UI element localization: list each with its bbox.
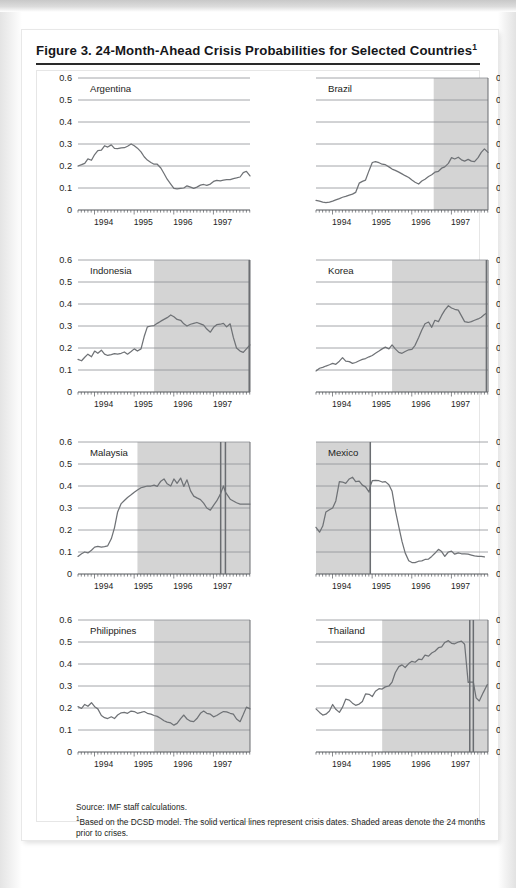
x-tick-label: 1996 (173, 759, 192, 769)
chart-panel-argentina: 00.10.20.30.40.50.61994199519961997Argen… (44, 70, 262, 250)
x-tick-label: 1994 (332, 581, 351, 591)
chart-title: Argentina (90, 83, 132, 94)
footnote-line: 1Based on the DCSD model. The solid vert… (76, 814, 488, 840)
x-tick-label: 1996 (411, 759, 430, 769)
x-tick-label: 1994 (332, 399, 351, 409)
chart-svg-malaysia: 00.10.20.30.40.50.61994199519961997Malay… (44, 434, 262, 614)
chart-grid: 00.10.20.30.40.50.61994199519961997Argen… (44, 70, 516, 790)
x-tick-label: 1994 (94, 399, 113, 409)
x-tick-label: 1994 (332, 759, 351, 769)
chart-title: Thailand (328, 625, 365, 636)
y-tick-label: 0.2 (59, 343, 72, 353)
y-tick-label: 0.1 (496, 547, 500, 557)
y-tick-label: 0.2 (59, 161, 72, 171)
source-line: Source: IMF staff calculations. (76, 802, 488, 814)
y-tick-label: 0.2 (496, 703, 500, 713)
scan-band-top (0, 0, 516, 12)
y-tick-label: 0.5 (59, 459, 72, 469)
y-tick-label: 0.6 (496, 255, 500, 265)
chart-title: Brazil (328, 83, 352, 94)
x-tick-label: 1995 (134, 581, 153, 591)
y-tick-label: 0.1 (59, 365, 72, 375)
x-tick-label: 1995 (372, 399, 391, 409)
x-tick-label: 1996 (173, 581, 192, 591)
y-tick-label: 0.2 (59, 703, 72, 713)
y-tick-label: 0.6 (496, 437, 500, 447)
y-tick-label: 0.5 (59, 95, 72, 105)
y-tick-label: 0.4 (496, 659, 500, 669)
y-tick-label: 0.1 (59, 183, 72, 193)
y-tick-label: 0.1 (496, 183, 500, 193)
x-tick-label: 1996 (173, 399, 192, 409)
y-tick-label: 0.2 (496, 161, 500, 171)
y-tick-label: 0.5 (496, 459, 500, 469)
chart-svg-philippines: 00.10.20.30.40.50.61994199519961997Phili… (44, 612, 262, 792)
x-tick-label: 1996 (411, 581, 430, 591)
y-tick-label: 0.4 (59, 481, 72, 491)
y-tick-label: 0.4 (496, 299, 500, 309)
chart-panel-mexico: 00.10.20.30.40.50.61994199519961997Mexic… (282, 434, 500, 614)
figure-title-text: Figure 3. 24-Month-Ahead Crisis Probabil… (36, 43, 472, 58)
y-tick-label: 0.5 (496, 637, 500, 647)
chart-svg-brazil: 00.10.20.30.40.50.61994199519961997Brazi… (282, 70, 500, 250)
y-tick-label: 0.4 (496, 481, 500, 491)
y-tick-label: 0.5 (496, 277, 500, 287)
x-tick-label: 1997 (213, 399, 232, 409)
y-tick-label: 0.4 (59, 659, 72, 669)
chart-svg-mexico: 00.10.20.30.40.50.61994199519961997Mexic… (282, 434, 500, 614)
chart-panel-philippines: 00.10.20.30.40.50.61994199519961997Phili… (44, 612, 262, 792)
x-tick-label: 1995 (134, 759, 153, 769)
y-tick-label: 0 (496, 387, 500, 397)
y-tick-label: 0.1 (496, 725, 500, 735)
y-tick-label: 0 (67, 205, 72, 215)
chart-panel-brazil: 00.10.20.30.40.50.61994199519961997Brazi… (282, 70, 500, 250)
x-tick-label: 1997 (451, 581, 470, 591)
chart-title: Malaysia (90, 447, 129, 458)
y-tick-label: 0.5 (59, 277, 72, 287)
y-tick-label: 0.3 (496, 321, 500, 331)
figure-title: Figure 3. 24-Month-Ahead Crisis Probabil… (36, 42, 477, 58)
y-tick-label: 0 (496, 205, 500, 215)
x-tick-label: 1997 (213, 581, 232, 591)
y-tick-label: 0.6 (59, 73, 72, 83)
page-root: Figure 3. 24-Month-Ahead Crisis Probabil… (0, 0, 516, 888)
footnote-text: Based on the DCSD model. The solid verti… (76, 817, 485, 839)
y-tick-label: 0 (67, 387, 72, 397)
x-tick-label: 1994 (94, 581, 113, 591)
figure-title-footnote-marker: 1 (472, 42, 477, 52)
figure-notes: Source: IMF staff calculations. 1Based o… (76, 802, 488, 840)
y-tick-label: 0.6 (59, 255, 72, 265)
y-tick-label: 0.6 (496, 615, 500, 625)
x-tick-label: 1996 (411, 399, 430, 409)
y-tick-label: 0.3 (59, 503, 72, 513)
x-tick-label: 1997 (213, 759, 232, 769)
y-tick-label: 0.6 (496, 73, 500, 83)
x-tick-label: 1995 (372, 217, 391, 227)
y-tick-label: 0.3 (59, 321, 72, 331)
chart-title: Philippines (90, 625, 137, 636)
x-tick-label: 1995 (372, 759, 391, 769)
chart-title: Indonesia (90, 265, 132, 276)
y-tick-label: 0.3 (496, 503, 500, 513)
y-tick-label: 0.1 (59, 725, 72, 735)
y-tick-label: 0.3 (496, 681, 500, 691)
scan-edge-left (0, 0, 22, 888)
y-tick-label: 0.5 (496, 95, 500, 105)
chart-panel-indonesia: 00.10.20.30.40.50.61994199519961997Indon… (44, 252, 262, 432)
y-tick-label: 0 (496, 569, 500, 579)
y-tick-label: 0 (496, 747, 500, 757)
x-tick-label: 1997 (451, 399, 470, 409)
chart-svg-indonesia: 00.10.20.30.40.50.61994199519961997Indon… (44, 252, 262, 432)
y-tick-label: 0.2 (59, 525, 72, 535)
y-tick-label: 0.3 (59, 139, 72, 149)
x-tick-label: 1994 (94, 217, 113, 227)
y-tick-label: 0 (67, 569, 72, 579)
y-tick-label: 0.4 (59, 117, 72, 127)
chart-title: Mexico (328, 447, 358, 458)
x-tick-label: 1997 (213, 217, 232, 227)
x-tick-label: 1994 (94, 759, 113, 769)
y-tick-label: 0.6 (59, 437, 72, 447)
x-tick-label: 1995 (372, 581, 391, 591)
chart-svg-korea: 00.10.20.30.40.50.61994199519961997Korea (282, 252, 500, 432)
y-tick-label: 0 (67, 747, 72, 757)
